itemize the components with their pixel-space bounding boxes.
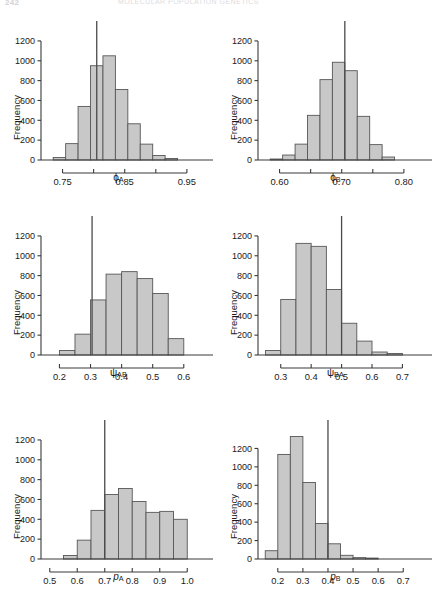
histogram-bar	[296, 243, 311, 355]
histogram-bar	[278, 454, 291, 559]
y-axis-tick-label: 400	[237, 517, 252, 527]
x-axis-tick-label: 0.60	[270, 176, 288, 187]
folio-page-number: 242	[5, 0, 19, 7]
x-axis-label-subscript: B	[336, 175, 341, 184]
x-axis-tick-label: 0.3	[274, 371, 287, 382]
histogram-bar	[341, 555, 354, 559]
histogram-bar	[290, 436, 303, 559]
y-axis-tick-label: 0	[30, 554, 35, 564]
y-axis-tick-label: 1000	[15, 455, 35, 465]
x-axis-tick-label: 0.5	[43, 575, 56, 586]
x-axis-label: ϕA	[89, 172, 149, 184]
y-axis-tick-label: 400	[237, 116, 252, 126]
histogram-bar	[283, 155, 295, 160]
y-axis-tick-label: 1200	[232, 444, 252, 454]
x-axis-tick-label: 0.6	[177, 371, 190, 382]
histogram-panel: 0200400600800100012000.20.30.40.50.60.7F…	[219, 400, 439, 608]
histogram-bar	[168, 339, 184, 355]
histogram-panel: 0200400600800100012000.20.30.40.50.6Freq…	[0, 200, 219, 400]
y-axis-tick-label: 0	[247, 350, 252, 360]
y-axis-tick-label: 800	[20, 76, 35, 86]
x-axis-label: pB	[306, 571, 366, 583]
histogram-bar	[357, 116, 369, 160]
y-axis-tick-label: 200	[237, 536, 252, 546]
histogram-panel: 0200400600800100012000.30.40.50.60.7Freq…	[219, 200, 439, 400]
x-axis-tick-label: 0.7	[397, 575, 410, 586]
histogram-bar	[303, 483, 316, 559]
running-head: MOLECULAR POPULATION GENETICS	[118, 0, 259, 5]
histogram-bar	[342, 323, 357, 355]
histogram-bar	[78, 106, 90, 160]
x-axis-tick-label: 0.2	[53, 371, 66, 382]
y-axis-tick-label: 200	[20, 330, 35, 340]
y-axis-tick-label: 800	[237, 271, 252, 281]
y-axis-tick-label: 200	[20, 534, 35, 544]
histogram-bar	[119, 489, 133, 559]
y-axis-tick-label: 600	[20, 291, 35, 301]
x-axis-label-subscript: A	[119, 175, 124, 184]
histogram-bar	[77, 540, 91, 559]
x-axis-label-subscript: A	[119, 574, 124, 583]
x-axis-tick-label: 0.9	[153, 575, 166, 586]
y-axis-tick-label: 1200	[232, 231, 252, 241]
y-axis-tick-label: 0	[30, 155, 35, 165]
figure-panel-grid: 0200400600800100012000.750.850.95Frequen…	[0, 9, 439, 608]
histogram-bar	[122, 272, 138, 355]
histogram-bar	[345, 71, 357, 160]
y-axis-tick-label: 1000	[232, 251, 252, 261]
x-axis-label-symbol: ψ	[327, 367, 334, 378]
y-axis-tick-label: 400	[20, 311, 35, 321]
y-axis-tick-label: 0	[30, 350, 35, 360]
histogram-bar	[153, 293, 169, 355]
y-axis-tick-label: 1000	[15, 56, 35, 66]
histogram-panel: 0200400600800100012000.600.700.80Frequen…	[219, 9, 439, 200]
x-axis-tick-label: 1.0	[181, 575, 194, 586]
y-axis-tick-label: 0	[247, 554, 252, 564]
y-axis-tick-label: 600	[20, 495, 35, 505]
y-axis-tick-label: 1200	[15, 435, 35, 445]
y-axis-tick-label: 800	[237, 481, 252, 491]
histogram-plot: 0200400600800100012000.50.60.70.80.91.0	[0, 400, 219, 600]
y-axis-tick-label: 400	[20, 116, 35, 126]
y-axis-tick-label: 200	[237, 330, 252, 340]
histogram-panel: 0200400600800100012000.750.850.95Frequen…	[0, 9, 219, 200]
histogram-bar	[91, 510, 105, 559]
y-axis-tick-label: 0	[247, 155, 252, 165]
histogram-bar	[265, 551, 278, 559]
y-axis-tick-label: 600	[237, 291, 252, 301]
y-axis-label: Frequency	[11, 95, 22, 140]
histogram-bar	[103, 56, 115, 160]
x-axis-tick-label: 0.75	[53, 176, 71, 187]
histogram-bar	[140, 144, 152, 160]
x-axis-tick-label: 0.7	[396, 371, 409, 382]
y-axis-tick-label: 1200	[15, 231, 35, 241]
y-axis-label: Frequency	[11, 494, 22, 539]
histogram-bar	[320, 80, 332, 160]
histogram-bar	[66, 144, 78, 160]
histogram-bar	[137, 279, 153, 355]
x-axis-label-subscript: AB	[117, 370, 127, 379]
y-axis-label: Frequency	[228, 494, 239, 539]
histogram-bar	[332, 62, 344, 160]
y-axis-tick-label: 400	[237, 311, 252, 321]
histogram-bar	[174, 519, 188, 559]
y-axis-tick-label: 400	[20, 515, 35, 525]
histogram-bar	[160, 511, 174, 559]
y-axis-tick-label: 800	[237, 76, 252, 86]
y-axis-tick-label: 800	[20, 475, 35, 485]
x-axis-label-subscript: BA	[334, 370, 344, 379]
histogram-bar	[308, 115, 320, 160]
y-axis-tick-label: 1200	[232, 36, 252, 46]
histogram-bar	[146, 512, 160, 559]
y-axis-tick-label: 1000	[232, 462, 252, 472]
y-axis-tick-label: 1200	[15, 36, 35, 46]
x-axis-label: pA	[89, 571, 149, 583]
histogram-bar	[328, 544, 341, 559]
y-axis-tick-label: 1000	[15, 251, 35, 261]
histogram-bar	[91, 300, 107, 355]
x-axis-label: ψAB	[89, 367, 149, 379]
histogram-bar	[266, 351, 281, 355]
x-axis-label-subscript: B	[336, 574, 341, 583]
histogram-bar	[311, 246, 326, 355]
y-axis-tick-label: 200	[237, 135, 252, 145]
